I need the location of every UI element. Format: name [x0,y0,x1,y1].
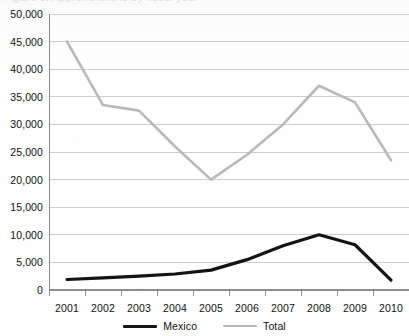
x-axis-tick-label: 2006 [235,302,259,314]
y-axis-tick-label: 25,000 [10,146,43,158]
legend-item-total[interactable]: Total [223,320,286,332]
x-axis-tick-label: 2009 [343,302,367,314]
chart-legend: MexicoTotal [0,318,409,334]
y-axis-tick-label: 50,000 [10,8,43,20]
legend-swatch-total [223,325,257,327]
x-axis-labels: 2001200220032004200520062007200820092010 [49,302,409,316]
legend-item-mexico[interactable]: Mexico [123,320,197,332]
y-axis-tick-label: 10,000 [10,229,43,241]
series-line-total [67,42,391,180]
y-axis-tick-label: 40,000 [10,63,43,75]
legend-swatch-mexico [123,325,157,328]
x-axis-tick-label: 2007 [271,302,295,314]
legend-label: Total [263,320,286,332]
plot-area [49,8,409,300]
plot-wrapper: 05,00010,00015,00020,00025,00030,00035,0… [0,8,409,300]
legend-label: Mexico [163,320,197,332]
y-axis-tick-label: 20,000 [10,174,43,186]
cut-off-title-text: Figure 3. Apprehensions by fiscal year [4,0,198,3]
y-axis-labels: 05,00010,00015,00020,00025,00030,00035,0… [0,8,48,300]
chart-container: Figure 3. Apprehensions by fiscal year 0… [0,0,409,336]
y-axis-tick-label: 35,000 [10,91,43,103]
series-line-mexico [67,235,391,280]
x-axis-tick-label: 2005 [199,302,223,314]
x-axis-tick-label: 2008 [307,302,331,314]
cut-off-title: Figure 3. Apprehensions by fiscal year [0,0,409,7]
x-axis-tick-label: 2003 [127,302,151,314]
line-chart-svg [49,8,409,300]
y-axis-tick-label: 30,000 [10,118,43,130]
y-axis-tick-label: 15,000 [10,201,43,213]
x-axis-tick-label: 2001 [55,302,79,314]
y-axis-tick-label: 5,000 [16,256,43,268]
y-axis-tick-label: 45,000 [10,36,43,48]
y-axis-tick-label: 0 [37,284,43,296]
x-axis-tick-label: 2004 [163,302,187,314]
x-axis-tick-label: 2010 [379,302,403,314]
x-axis-tick-label: 2002 [91,302,115,314]
